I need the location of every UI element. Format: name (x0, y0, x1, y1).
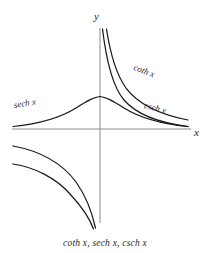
curve-coth-negative (13, 146, 96, 228)
curve-csch-positive (103, 29, 189, 127)
hyperbolic-functions-figure: y x coth x sech x csch x coth x, sech x,… (0, 0, 210, 253)
plot-canvas (0, 0, 210, 253)
figure-caption: coth x, sech x, csch x (0, 238, 210, 248)
x-axis-label: x (194, 126, 199, 138)
y-axis-label: y (94, 10, 99, 22)
curve-csch-negative (13, 164, 94, 229)
